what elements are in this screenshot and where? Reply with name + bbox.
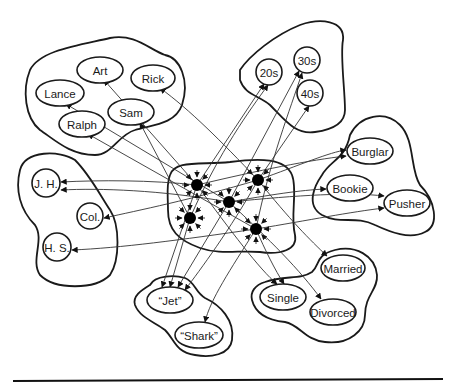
connection-edge <box>258 150 346 180</box>
inbound-arrow <box>196 207 201 212</box>
instance-unit-h4 <box>184 212 196 224</box>
node-label: Pusher <box>389 198 426 210</box>
node-label: 30s <box>298 55 317 67</box>
node-rick: Rick <box>131 65 175 91</box>
node-sam: Sam <box>108 99 154 125</box>
node-art: Art <box>77 57 123 83</box>
node-label: Divorced <box>310 307 355 319</box>
instance-unit-h3 <box>223 196 235 208</box>
node-label: Art <box>93 65 109 77</box>
node-label: Rick <box>142 73 165 85</box>
node-burglar: Burglar <box>347 138 393 164</box>
inbound-arrow <box>179 207 184 212</box>
node-label: “Jet” <box>159 295 182 307</box>
node-40s: 40s <box>297 80 323 106</box>
node-label: “Shark” <box>180 330 218 342</box>
inbound-arrow <box>235 191 240 196</box>
connection-edge <box>256 208 384 229</box>
connection-edge <box>197 84 264 185</box>
node-label: Single <box>267 292 299 304</box>
ages-pool <box>240 21 345 132</box>
inbound-arrow <box>235 208 240 213</box>
node-pusher: Pusher <box>384 190 430 216</box>
node-single: Single <box>260 284 306 310</box>
inbound-arrow <box>262 218 267 223</box>
node-ralph: Ralph <box>59 111 105 137</box>
node-label: Ralph <box>67 119 97 131</box>
node-lance: Lance <box>36 80 84 106</box>
connection-edge <box>256 229 284 284</box>
node-label: Bookie <box>332 183 367 195</box>
connection-edge <box>205 229 256 322</box>
connection-edge <box>72 229 256 250</box>
bottom-rule <box>13 379 443 381</box>
node-label: J. H. <box>34 178 58 190</box>
node-label: 20s <box>260 67 279 79</box>
occupations-pool <box>313 116 434 235</box>
connection-edge <box>140 123 190 218</box>
instance-unit-h1 <box>191 179 203 191</box>
node-hs: H. S. <box>43 233 71 261</box>
inbound-arrow <box>196 224 201 229</box>
node-label: Lance <box>44 88 75 100</box>
node-label: H. S. <box>44 242 70 254</box>
instance-unit-h5 <box>250 223 262 235</box>
node-label: Burglar <box>351 146 388 158</box>
connection-edge <box>104 180 258 218</box>
connection-edge <box>61 189 229 202</box>
node-30s: 30s <box>294 47 320 73</box>
node-label: Sam <box>119 107 143 119</box>
node-label: 40s <box>301 88 320 100</box>
node-20s: 20s <box>256 59 282 85</box>
instance-unit-h2 <box>252 174 264 186</box>
node-married: Married <box>321 255 365 281</box>
node-bookie: Bookie <box>327 175 373 201</box>
connection-edge <box>258 106 309 180</box>
node-label: Col. <box>80 211 100 223</box>
node-divorced: Divorced <box>310 299 356 325</box>
node-label: Married <box>324 263 363 275</box>
node-col: Col. <box>77 203 103 229</box>
node-jh: J. H. <box>32 169 60 197</box>
node-shark: “Shark” <box>175 322 223 348</box>
inbound-arrow <box>247 186 252 191</box>
jets-sharks-network-diagram: ArtRickLanceSamRalph20s30s40sJ. H.Col.H.… <box>0 0 454 388</box>
node-jet: “Jet” <box>147 287 193 313</box>
